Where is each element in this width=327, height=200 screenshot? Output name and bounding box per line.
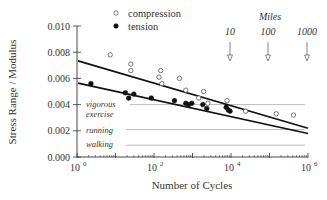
compression-point [274, 112, 278, 116]
y-axis-label: Stress Range / Modulus [6, 40, 18, 145]
y-tick-label: 0.010 [48, 21, 71, 32]
compression-point [108, 53, 112, 57]
legend-label-tension: tension [128, 21, 159, 32]
x-tick-exponent: 0 [83, 160, 87, 168]
tension-point [189, 101, 194, 106]
y-tick-label: 0.000 [48, 152, 71, 163]
arrow-head-icon [305, 55, 310, 61]
ref-label-vigorous: vigorous [86, 99, 116, 109]
tension-point [123, 90, 128, 95]
tension-point [149, 96, 154, 101]
compression-point [225, 98, 229, 102]
tension-point [172, 98, 177, 103]
axes: 0.0000.0020.0040.0060.0080.0101001021041… [48, 21, 319, 174]
x-tick-label: 10 [301, 162, 311, 173]
tension-point [89, 81, 94, 86]
fit-lines [78, 61, 308, 134]
miles-label: 10 [225, 26, 235, 37]
y-tick-label: 0.002 [48, 125, 71, 136]
legend-marker-tension [114, 24, 118, 28]
legend-marker-compression [114, 11, 118, 15]
compression-point [129, 62, 133, 66]
miles-title: Miles [258, 11, 281, 22]
legend: compressiontension [114, 8, 182, 32]
tension-point [126, 96, 131, 101]
compression-point [129, 68, 133, 72]
fatigue-chart: 0.0000.0020.0040.0060.0080.0101001021041… [0, 0, 327, 200]
compression-point [177, 76, 181, 80]
ref-label-exercise: exercise [86, 109, 114, 119]
x-tick-label: 10 [147, 162, 157, 173]
compression-point [201, 89, 205, 93]
compression-point [159, 68, 163, 72]
ref-label-walking: walking [86, 139, 113, 149]
compression-point [197, 96, 201, 100]
y-tick-label: 0.008 [48, 47, 71, 58]
tension-point [228, 109, 233, 114]
compression-point [157, 75, 161, 79]
x-tick-label: 10 [70, 162, 80, 173]
miles-label: 100 [261, 26, 276, 37]
compression-point [206, 101, 210, 105]
x-tick-label: 10 [224, 162, 234, 173]
y-tick-label: 0.006 [48, 73, 71, 84]
reference-lines [126, 105, 305, 146]
arrow-head-icon [266, 55, 271, 61]
x-axis-label: Number of Cycles [152, 179, 233, 191]
y-tick-label: 0.004 [48, 99, 71, 110]
compression-point [160, 81, 164, 85]
x-tick-exponent: 6 [314, 160, 318, 168]
x-tick-exponent: 2 [160, 160, 164, 168]
compression-point [184, 88, 188, 92]
tension-point [204, 106, 209, 111]
x-tick-exponent: 4 [237, 160, 241, 168]
miles-label: 1000 [297, 26, 317, 37]
compression-point [243, 109, 247, 113]
legend-label-compression: compression [128, 8, 182, 19]
ref-label-running: running [86, 125, 113, 135]
tension-point [131, 92, 136, 97]
tension-point [200, 102, 205, 107]
compression-point [291, 113, 295, 117]
miles-annotation: Miles101001000 [225, 11, 317, 61]
arrow-head-icon [228, 55, 233, 61]
